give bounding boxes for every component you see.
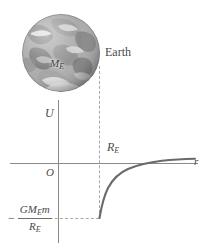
fraction-numerator: GMEm <box>18 203 52 217</box>
gravitational-potential-figure: ME Earth U O r RE − GMEm RE <box>0 0 208 250</box>
fraction-denominator: RE <box>27 220 43 234</box>
minus-sign: − <box>8 211 15 226</box>
fraction-bar <box>18 218 52 219</box>
minimum-potential-value-label: − GMEm RE <box>8 203 52 234</box>
fraction: GMEm RE <box>18 203 52 234</box>
